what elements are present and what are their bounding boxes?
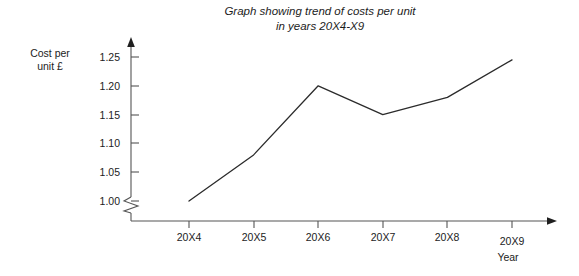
x-tick-label-20x9: 20X9	[482, 235, 542, 247]
x-tick-label-20x5: 20X5	[224, 231, 284, 243]
y-tick-label-1-20: 1.20	[88, 80, 120, 92]
x-axis-arrowhead	[547, 217, 557, 225]
x-tick-label-20x6: 20X6	[288, 231, 348, 243]
cost-per-unit-line-chart: Graph showing trend of costs per unit in…	[0, 0, 579, 276]
y-axis-break-zigzag	[124, 197, 138, 213]
x-tick-label-20x4: 20X4	[159, 231, 219, 243]
y-tick-label-1-05: 1.05	[88, 166, 120, 178]
y-tick-label-1-00: 1.00	[88, 195, 120, 207]
cost-per-unit-series-line	[189, 60, 512, 201]
y-tick-label-1-25: 1.25	[88, 51, 120, 63]
y-axis-title: Cost per unit £	[14, 47, 86, 73]
x-axis-title: Year	[478, 251, 538, 263]
x-tick-label-20x7: 20X7	[353, 231, 413, 243]
y-tick-label-1-15: 1.15	[88, 109, 120, 121]
y-tick-label-1-10: 1.10	[88, 137, 120, 149]
y-axis-arrowhead	[127, 37, 135, 47]
x-tick-label-20x8: 20X8	[417, 231, 477, 243]
